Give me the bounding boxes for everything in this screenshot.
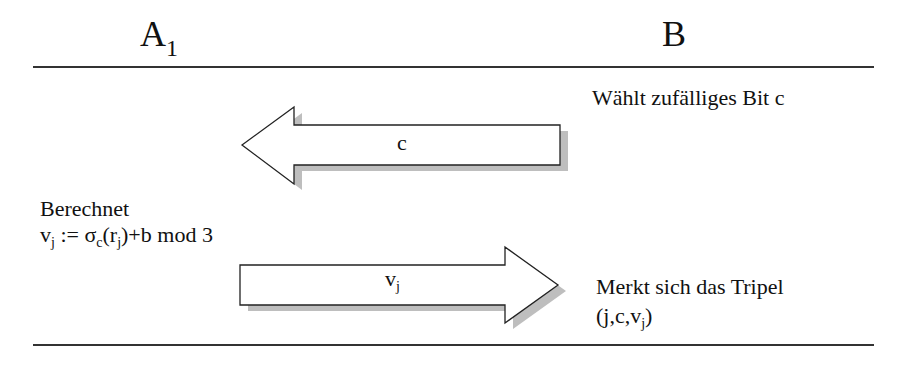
formula-assign-sigma: := σ <box>55 222 96 247</box>
a-compute-title: Berechnet <box>40 196 129 222</box>
vj-v: v <box>385 266 396 291</box>
b-store-tuple: (j,c,vj) <box>596 303 652 329</box>
tuple-open: (j,c,v <box>596 303 641 328</box>
b-store-title: Merkt sich das Tripel <box>596 274 784 300</box>
tuple-close: ) <box>645 303 652 328</box>
formula-rest: )+b mod 3 <box>121 222 213 247</box>
a-compute-formula: vj := σc(rj)+b mod 3 <box>40 222 213 248</box>
arrow-c-label: c <box>397 130 407 156</box>
arrow-vj-label: vj <box>385 266 400 295</box>
message-arrows <box>0 0 905 368</box>
formula-v: v <box>40 222 51 247</box>
vj-j: j <box>396 279 400 294</box>
formula-r: (r <box>103 222 118 247</box>
